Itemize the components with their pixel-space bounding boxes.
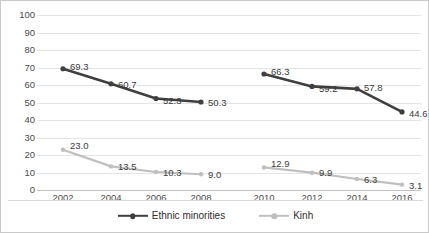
data-point-label: 57.8 (364, 83, 383, 93)
data-point-label: 9.0 (208, 171, 221, 181)
series-kinh (61, 148, 404, 187)
y-axis-tick: 70 (5, 63, 35, 73)
y-axis-tick: 80 (5, 45, 35, 55)
data-point-label: 12.9 (271, 160, 290, 170)
data-point-label: 9.9 (319, 168, 332, 178)
series-line (264, 167, 402, 184)
chart-container: 0102030405060708090100 69.360.752.350.36… (0, 0, 429, 233)
y-axis-tick: 20 (5, 150, 35, 160)
y-axis-tick: 40 (5, 115, 35, 125)
data-point-marker (199, 172, 203, 176)
data-point-marker (154, 170, 158, 174)
data-point-marker (355, 177, 359, 181)
data-point-marker (153, 96, 158, 101)
series-ethnic-minorities (60, 66, 404, 114)
legend-separator (8, 200, 423, 201)
y-axis-tick: 100 (5, 10, 35, 20)
data-point-marker (400, 182, 404, 186)
data-point-marker (310, 170, 314, 174)
data-point-label: 10.3 (163, 168, 182, 178)
data-point-marker (108, 81, 113, 86)
data-point-marker (60, 66, 65, 71)
y-axis-tick: 60 (5, 80, 35, 90)
data-point-marker (261, 71, 266, 76)
data-point-label: 69.3 (70, 62, 89, 72)
data-point-label: 13.5 (118, 163, 137, 173)
legend-marker-icon (118, 211, 148, 221)
x-axis-tick: 2012 (301, 193, 322, 203)
x-axis-tick: 2008 (190, 193, 211, 203)
x-axis-tick: 2010 (253, 193, 274, 203)
data-point-label: 60.7 (118, 80, 137, 90)
data-point-marker (399, 109, 404, 114)
y-axis-tick: 30 (5, 133, 35, 143)
x-axis-tick: 2016 (391, 193, 412, 203)
data-point-label: 3.1 (409, 181, 422, 191)
data-point-marker (109, 164, 113, 168)
legend-item-kinh[interactable]: Kinh (259, 211, 313, 221)
legend-item-ethnic-minorities[interactable]: Ethnic minorities (118, 211, 225, 221)
y-axis-tick: 0 (5, 185, 35, 195)
legend-marker-icon (259, 211, 289, 221)
data-point-label: 52.3 (163, 97, 182, 107)
data-point-label: 50.3 (208, 98, 227, 108)
y-axis-tick: 10 (5, 168, 35, 178)
y-axis: 0102030405060708090100 (1, 15, 35, 190)
x-axis-tick: 2006 (145, 193, 166, 203)
data-point-label: 59.2 (319, 85, 338, 95)
data-point-marker (354, 86, 359, 91)
x-axis-tick: 2002 (52, 193, 73, 203)
data-point-label: 23.0 (70, 141, 89, 151)
x-axis-line (37, 190, 421, 191)
legend-label: Ethnic minorities (152, 211, 225, 221)
data-point-marker (198, 99, 203, 104)
data-point-marker (309, 84, 314, 89)
series-layer (37, 15, 421, 190)
chart-legend: Ethnic minoritiesKinh (1, 206, 429, 226)
x-axis-tick: 2014 (346, 193, 367, 203)
data-point-marker (262, 165, 266, 169)
plot-area: 69.360.752.350.366.359.257.844.623.013.5… (37, 15, 421, 190)
data-point-label: 66.3 (271, 67, 290, 77)
y-axis-tick: 50 (5, 98, 35, 108)
data-point-label: 44.6 (409, 109, 428, 119)
x-axis-tick: 2004 (100, 193, 121, 203)
legend-label: Kinh (293, 211, 313, 221)
data-point-marker (61, 148, 65, 152)
y-axis-tick: 90 (5, 28, 35, 38)
data-point-label: 6.3 (364, 175, 377, 185)
